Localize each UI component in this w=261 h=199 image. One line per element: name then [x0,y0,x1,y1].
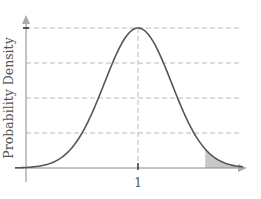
density-curve [15,28,243,168]
x-tick-label: 1 [134,176,142,190]
y-axis-arrow-icon [22,15,30,24]
chart-canvas [0,0,261,199]
y-axis-label: Probability Density [1,37,16,158]
shaded-tail-area [205,149,243,168]
x-axis-arrow-icon [238,164,247,172]
gridlines [26,28,240,133]
